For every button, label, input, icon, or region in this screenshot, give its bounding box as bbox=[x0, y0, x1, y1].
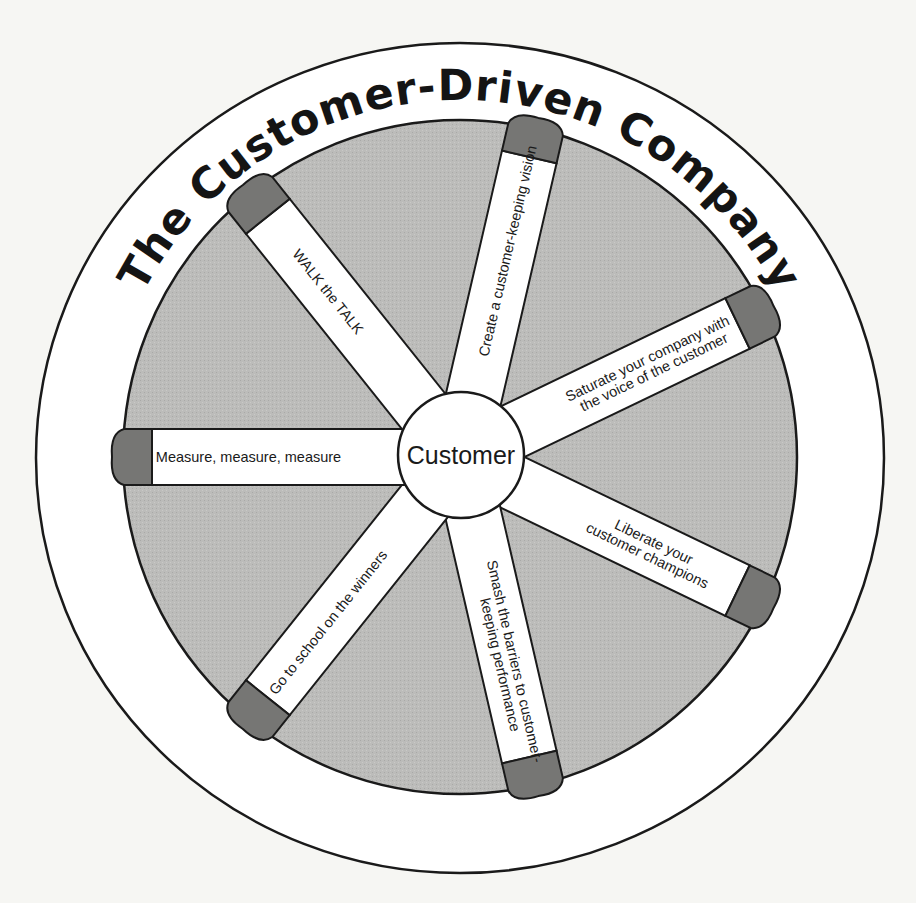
hub: Customer bbox=[398, 392, 524, 518]
spoke: Measure, measure, measure bbox=[112, 429, 420, 485]
spoke-cap bbox=[112, 429, 152, 485]
spoke-label: Measure, measure, measure bbox=[156, 449, 341, 465]
customer-driven-wheel-diagram: The Customer-Driven Company Create a cus… bbox=[0, 0, 916, 903]
hub-label: Customer bbox=[407, 441, 515, 469]
